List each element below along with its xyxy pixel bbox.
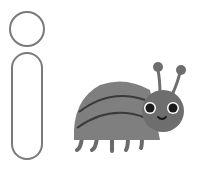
letter-i-stem [12, 53, 42, 159]
pupil-left [146, 104, 155, 113]
letter-i-dot [10, 12, 44, 46]
canvas [0, 0, 201, 176]
bug-illustration [74, 62, 186, 151]
antenna-tip-left [153, 62, 163, 72]
pupil-right [169, 104, 178, 113]
letter-i-outline [10, 12, 44, 159]
antenna-tip-right [176, 65, 186, 75]
